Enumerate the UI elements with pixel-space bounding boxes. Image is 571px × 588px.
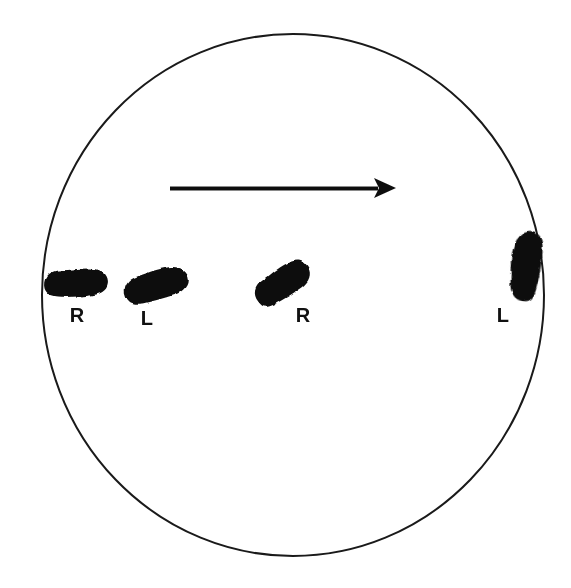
footprints-group [43,230,545,312]
footprint-label-4: L [497,304,510,326]
footprint-label-3: R [296,304,311,326]
figure-root: R L R L [0,0,571,588]
circle-boundary [42,34,544,556]
footprint-1 [43,267,108,298]
footprint-diagram: R L R L [0,0,571,588]
footprint-label-1: R [70,304,85,326]
direction-arrow [170,178,396,198]
footprint-shape [43,267,108,298]
footprint-labels-group: R L R L [70,304,510,329]
footprint-shape [121,262,191,308]
footprint-3 [249,255,316,312]
footprint-2 [121,262,191,308]
footprint-shape [249,255,316,312]
footprint-4 [506,230,546,303]
circle-boundary-group [42,34,544,556]
footprint-shape [506,230,546,303]
footprint-label-2: L [141,307,154,329]
